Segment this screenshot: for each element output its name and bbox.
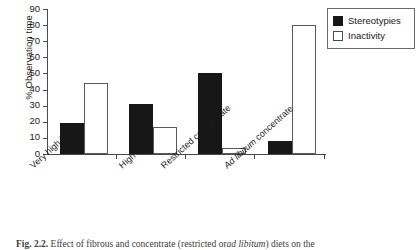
y-tick-label-40: 40 [29, 83, 40, 95]
legend-label-stereotypies: Stereotypies [348, 15, 401, 26]
y-tick-label-60: 60 [29, 51, 40, 63]
figure-caption-text-italic: ad libitum [227, 239, 266, 249]
x-tick-3 [254, 154, 255, 159]
legend-item-inactivity: Inactivity [333, 28, 409, 43]
bar-inactivity-ad-libitum-concentrate [292, 25, 316, 154]
plot-area: 0 10 20 30 40 50 60 70 [47, 9, 325, 154]
y-tick-label-80: 80 [29, 19, 40, 31]
legend-swatch-inactivity-icon [333, 31, 343, 41]
y-tick-label-20: 20 [29, 115, 40, 127]
figure-caption: Fig. 2.2. Effect of fibrous and concentr… [16, 239, 408, 250]
bar-stereotypies-ad-libitum-concentrate [268, 141, 292, 154]
y-tick-label-30: 30 [29, 99, 40, 111]
y-tick-label-50: 50 [29, 67, 40, 79]
legend-swatch-stereotypies-icon [333, 16, 343, 26]
figure-caption-text-a: Effect of fibrous and concentrate (restr… [51, 239, 227, 249]
x-tick-1 [116, 154, 117, 159]
figure-caption-label: Fig. 2.2. [16, 239, 48, 249]
chart-legend: Stereotypies Inactivity [327, 8, 415, 49]
y-tick-label-70: 70 [29, 35, 40, 47]
figure-caption-text-b: ) diets on the [265, 239, 314, 249]
legend-item-stereotypies: Stereotypies [333, 13, 409, 28]
y-axis-line [47, 9, 48, 155]
bar-inactivity-very-high-fibre [84, 83, 108, 154]
legend-label-inactivity: Inactivity [348, 30, 385, 41]
x-tick-2 [185, 154, 186, 159]
x-tick-4 [324, 154, 325, 159]
y-tick-label-90: 90 [29, 3, 40, 15]
y-tick-label-10: 10 [29, 131, 40, 143]
